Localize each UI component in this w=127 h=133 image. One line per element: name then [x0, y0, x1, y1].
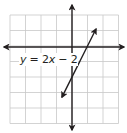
grid	[10, 15, 119, 124]
equation-equals: = 2	[26, 53, 48, 66]
equation-label: y = 2x − 2	[19, 53, 78, 66]
equation-constant: − 2	[55, 53, 77, 66]
coordinate-graph	[0, 0, 127, 133]
